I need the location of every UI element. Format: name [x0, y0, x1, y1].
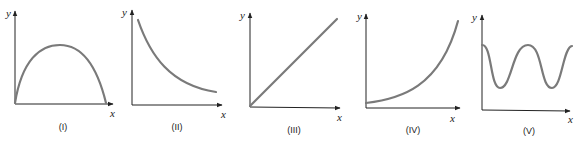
x-axis [250, 107, 340, 108]
panel-label: (II) [172, 122, 183, 132]
y-axis-label: y [121, 6, 127, 18]
curve-parabola [15, 45, 106, 103]
y-axis-label: y [356, 10, 362, 22]
panel-label: (IV) [406, 125, 421, 135]
x-axis-label: x [449, 112, 455, 124]
graph-panel-2: y x (II) [121, 6, 226, 132]
graph-panel-1: y x (I) [5, 7, 115, 132]
x-axis-label: x [567, 113, 573, 125]
curve-wave [482, 45, 572, 88]
y-axis-label: y [5, 7, 11, 19]
panel-label: (V) [523, 126, 535, 136]
graph-panel-4: y x (IV) [356, 10, 460, 135]
x-axis-label: x [220, 108, 226, 120]
x-axis-label: x [336, 111, 342, 123]
graphs-figure: y x (I) y x (II) y x (III) y x (IV) y x … [0, 0, 578, 141]
x-axis [482, 110, 570, 111]
y-axis-label: y [471, 11, 477, 23]
curve-linear [250, 19, 337, 106]
y-axis-label: y [239, 9, 245, 21]
graph-panel-3: y x (III) [239, 9, 342, 135]
panel-label: (III) [287, 125, 301, 135]
curve-decay [138, 20, 216, 92]
graph-panel-5: y x (V) [471, 11, 573, 136]
panel-label: (I) [59, 122, 68, 132]
curve-growth [366, 21, 458, 103]
x-axis-label: x [109, 107, 115, 119]
